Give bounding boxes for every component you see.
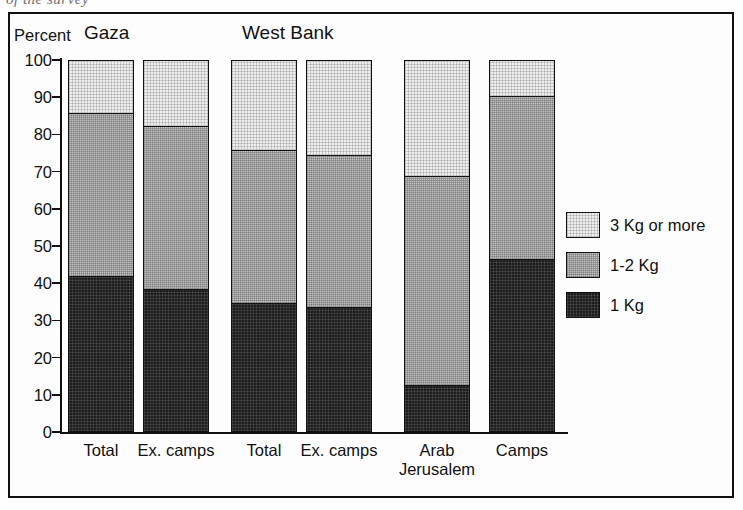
bar-ex-camps[interactable] — [306, 60, 372, 432]
segment-s2 — [144, 126, 208, 289]
segment-s1 — [405, 385, 469, 431]
segment-s3 — [144, 61, 208, 126]
legend-item-s2[interactable]: 1-2 Kg — [566, 252, 736, 278]
bar-total[interactable] — [68, 60, 134, 432]
figure-stage: of the survey Percent Gaza West Bank 010… — [0, 0, 743, 510]
bar-arab-jerusalem[interactable] — [404, 60, 470, 432]
x-axis-label-line: Camps — [462, 441, 582, 460]
segment-s1 — [232, 303, 296, 431]
segment-s1 — [144, 289, 208, 431]
legend: 3 Kg or more1-2 Kg1 Kg — [566, 212, 736, 332]
segment-s1 — [69, 276, 133, 431]
segment-s1 — [490, 259, 554, 431]
segment-s2 — [69, 113, 133, 276]
segment-s3 — [490, 61, 554, 96]
legend-label: 1 Kg — [610, 296, 644, 315]
legend-swatch-s2 — [566, 252, 600, 278]
x-axis-label-5: Camps — [462, 441, 582, 460]
legend-item-s1[interactable]: 1 Kg — [566, 292, 736, 318]
bar-total[interactable] — [231, 60, 297, 432]
x-axis-label-line: Jerusalem — [377, 460, 497, 479]
segment-s3 — [232, 61, 296, 150]
legend-swatch-s1 — [566, 292, 600, 318]
bar-ex-camps[interactable] — [143, 60, 209, 432]
legend-swatch-s3 — [566, 212, 600, 238]
segment-s2 — [307, 155, 371, 307]
segment-s1 — [307, 307, 371, 431]
segment-s2 — [490, 96, 554, 259]
legend-item-s3[interactable]: 3 Kg or more — [566, 212, 736, 238]
segment-s3 — [69, 61, 133, 113]
segment-s2 — [232, 150, 296, 304]
legend-label: 1-2 Kg — [610, 256, 659, 275]
bar-camps[interactable] — [489, 60, 555, 432]
segment-s3 — [307, 61, 371, 155]
segment-s3 — [405, 61, 469, 176]
legend-label: 3 Kg or more — [610, 216, 705, 235]
segment-s2 — [405, 176, 469, 385]
